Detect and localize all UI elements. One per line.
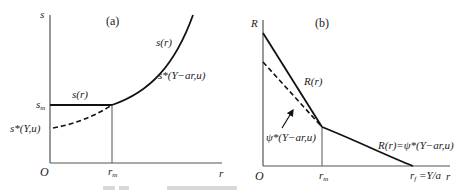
panel-a-sm-label: sm xyxy=(36,98,45,112)
panel-a-curve-label-top: s(r) xyxy=(156,36,172,49)
panel-b-rf-label: rf =Y/a xyxy=(410,169,442,183)
panel-b-steep-label: R(r) xyxy=(303,75,323,88)
panel-b-dashed-label: ψ*(Y−ar,u) xyxy=(266,131,316,144)
panel-a-flat-label: s(r) xyxy=(72,88,88,101)
panel-a-title: (a) xyxy=(106,14,119,28)
panel-b-origin: O xyxy=(255,169,264,183)
panel-a-x-axis-label: r xyxy=(219,167,224,179)
panel-b-x-axis-label: r xyxy=(446,170,451,182)
panel-b-curve-label: R(r)=ψ*(Y−ar,u) xyxy=(377,139,454,152)
panel-a-curve-label-bottom: s*(Y−ar,u) xyxy=(158,69,206,82)
panel-a-y-axis-label: s xyxy=(40,8,44,20)
panel-a-s-curve xyxy=(112,15,193,105)
caption-fragment xyxy=(103,186,237,190)
diagram-canvas: s (a) O r sm rm s(r) s(r) s*(Y−ar,u) s*(… xyxy=(0,0,461,190)
panel-a-origin: O xyxy=(40,165,49,179)
panel-b-rm-label: rm xyxy=(319,169,328,183)
panel-b-title: (b) xyxy=(315,16,329,30)
panel-a-dashed-curve xyxy=(53,105,112,128)
panel-b-pointer-arrow-icon xyxy=(282,110,293,128)
panel-b-y-axis-label: R xyxy=(250,17,258,29)
panel-a-dashed-label: s*(Y,u) xyxy=(10,122,41,135)
panel-a-rm-label: rm xyxy=(108,165,117,179)
panel-b: R (b) O r rm rf =Y/a R(r) ψ*(Y−ar,u) R(r… xyxy=(250,16,454,183)
panel-a: s (a) O r sm rm s(r) s(r) s*(Y−ar,u) s*(… xyxy=(10,8,224,179)
panel-b-dashed-line xyxy=(263,62,322,127)
